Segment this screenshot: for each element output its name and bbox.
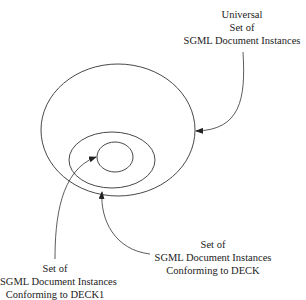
deck-set-ellipse: [69, 132, 155, 188]
universal-arrow: [196, 52, 244, 131]
deck1-set-ellipse: [97, 142, 133, 172]
label-line: Set of: [178, 21, 306, 34]
deck1-set-label: Set of SGML Document Instances Conformin…: [0, 262, 110, 300]
label-line: Set of: [148, 238, 278, 251]
deck-set-label: Set of SGML Document Instances Conformin…: [148, 238, 278, 277]
label-line: Conforming to DECK: [148, 264, 278, 277]
label-line: Set of: [0, 262, 110, 275]
label-line: SGML Document Instances: [148, 251, 278, 264]
universal-set-label: Universal Set of SGML Document Instances: [178, 8, 306, 47]
deck1-arrow: [55, 157, 96, 259]
label-line: SGML Document Instances: [178, 34, 306, 47]
label-line: Universal: [178, 8, 306, 21]
label-line: Conforming to DECK1: [0, 288, 110, 300]
universal-set-ellipse: [41, 64, 195, 196]
deck-arrow: [102, 192, 150, 254]
label-line: SGML Document Instances: [0, 275, 110, 288]
